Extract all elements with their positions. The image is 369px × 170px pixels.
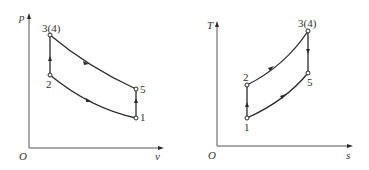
pv-state-point-2 xyxy=(48,73,52,77)
pv-diagram: p v O 3(4) 2 5 1 xyxy=(18,11,164,162)
pv-y-axis-arrowhead-icon xyxy=(27,13,31,19)
pv-y-axis-label: p xyxy=(18,11,25,23)
pv-arrow-up-right-icon xyxy=(134,98,138,103)
pv-label-1: 1 xyxy=(140,111,146,123)
pv-arrow-up-icon xyxy=(48,56,52,61)
ts-label-1: 1 xyxy=(244,121,250,133)
ts-diagram: T s O 3(4) 2 5 1 xyxy=(207,17,353,161)
pv-arrow-compression-icon xyxy=(86,98,92,102)
pv-process-1-2 xyxy=(50,75,136,118)
ts-state-point-2 xyxy=(245,83,249,87)
ts-state-point-1 xyxy=(245,116,249,120)
diagram-canvas: p v O 3(4) 2 5 1 T s O xyxy=(0,0,369,170)
ts-state-point-3-4 xyxy=(306,29,310,33)
pv-label-2: 2 xyxy=(46,78,52,90)
ts-arrow-up-icon xyxy=(245,102,249,107)
pv-label-3-4: 3(4) xyxy=(42,22,61,35)
pv-process-3-5 xyxy=(50,35,136,89)
ts-label-3-4: 3(4) xyxy=(298,17,317,30)
ts-label-2: 2 xyxy=(243,71,249,83)
pv-state-point-1 xyxy=(134,116,138,120)
ts-y-axis-arrowhead-icon xyxy=(215,21,219,27)
ts-process-2-3 xyxy=(247,31,308,85)
ts-arrow-down-icon xyxy=(306,49,310,54)
pv-label-5: 5 xyxy=(140,83,146,95)
ts-state-point-5 xyxy=(306,71,310,75)
ts-label-5: 5 xyxy=(307,76,313,88)
pv-state-point-5 xyxy=(134,87,138,91)
ts-x-axis-arrowhead-icon xyxy=(347,144,353,148)
pv-x-axis-label: v xyxy=(155,150,160,162)
ts-y-axis-label: T xyxy=(207,19,214,31)
ts-origin-label: O xyxy=(208,149,216,161)
pv-origin-label: O xyxy=(19,150,27,162)
ts-x-axis-label: s xyxy=(346,149,350,161)
